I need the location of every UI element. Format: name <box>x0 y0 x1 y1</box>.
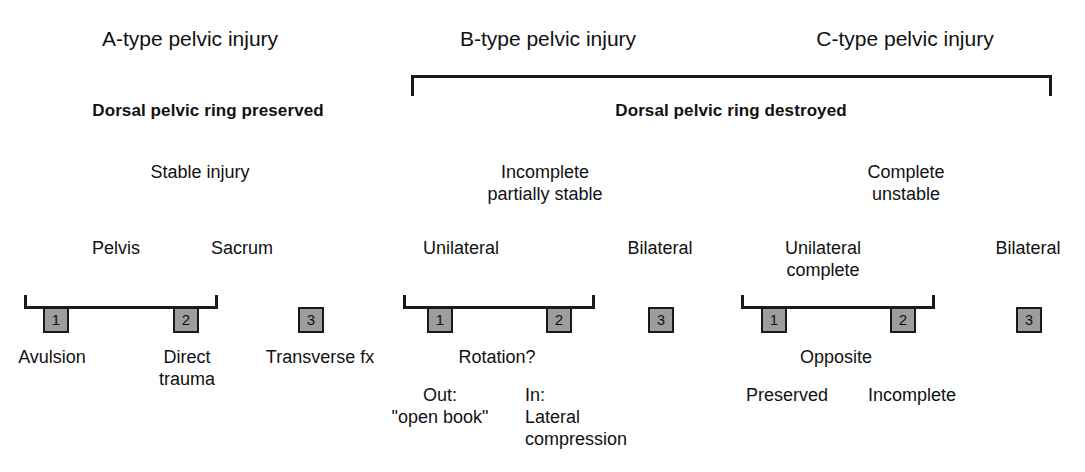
box-a1[interactable]: 1 <box>43 307 69 333</box>
box-b1[interactable]: 1 <box>427 307 453 333</box>
detail-b2-in: In: <box>525 385 545 406</box>
detail-a3-transverse-fx: Transverse fx <box>266 347 374 368</box>
sidedness-c-unilateral-complete: complete <box>786 260 859 281</box>
sidedness-b-unilateral: Unilateral <box>423 238 499 259</box>
detail-b2-lateral: Lateral <box>525 407 580 428</box>
box-c2[interactable]: 2 <box>890 307 916 333</box>
stability-c-unstable: unstable <box>872 184 940 205</box>
stability-a-stable: Stable injury <box>150 162 249 183</box>
detail-b-rotation: Rotation? <box>458 347 535 368</box>
subtitle-dorsal-ring-preserved: Dorsal pelvic ring preserved <box>92 101 323 121</box>
box-c3[interactable]: 3 <box>1016 307 1042 333</box>
sidedness-c-bilateral: Bilateral <box>995 238 1060 259</box>
box-a2[interactable]: 2 <box>173 307 199 333</box>
box-b2[interactable]: 2 <box>546 307 572 333</box>
stability-b-partially-stable: partially stable <box>487 184 602 205</box>
detail-b1-out: Out: <box>423 385 457 406</box>
title-c-type: C-type pelvic injury <box>816 27 993 52</box>
stability-c-complete: Complete <box>867 162 944 183</box>
sidedness-a-sacrum: Sacrum <box>211 238 273 259</box>
sidedness-b-bilateral: Bilateral <box>627 238 692 259</box>
sidedness-a-pelvis: Pelvis <box>92 238 140 259</box>
box-a3[interactable]: 3 <box>298 307 324 333</box>
detail-c-opposite: Opposite <box>800 347 872 368</box>
stability-b-incomplete: Incomplete <box>501 162 589 183</box>
box-c1[interactable]: 1 <box>761 307 787 333</box>
sidedness-c-unilateral: Unilateral <box>785 238 861 259</box>
detail-a2-trauma: trauma <box>159 369 215 390</box>
detail-a2-direct: Direct <box>163 347 210 368</box>
detail-c1-preserved: Preserved <box>746 385 828 406</box>
detail-b2-compression: compression <box>525 429 627 450</box>
title-b-type: B-type pelvic injury <box>460 27 636 52</box>
box-b3[interactable]: 3 <box>648 307 674 333</box>
title-a-type: A-type pelvic injury <box>102 27 278 52</box>
bracket-dorsal-ring-destroyed <box>411 75 1052 96</box>
detail-a1-avulsion: Avulsion <box>18 347 86 368</box>
detail-b1-open-book: "open book" <box>392 407 489 428</box>
subtitle-dorsal-ring-destroyed: Dorsal pelvic ring destroyed <box>615 101 846 121</box>
detail-c2-incomplete: Incomplete <box>868 385 956 406</box>
pelvic-injury-classification-diagram: A-type pelvic injury B-type pelvic injur… <box>0 0 1085 472</box>
